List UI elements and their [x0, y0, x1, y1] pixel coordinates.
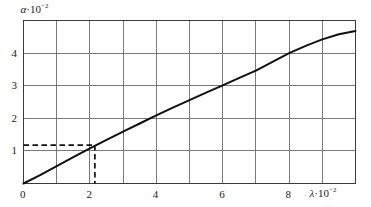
plot-canvas [0, 0, 371, 207]
xtick-label-3: 6 [219, 189, 225, 200]
y-axis-exponent: −2 [41, 2, 48, 10]
chart-figure: 0 2 4 6 8 1 2 3 4 α·10−2 λ·10−2 [0, 0, 371, 207]
xtick-label-1: 2 [86, 189, 92, 200]
x-axis-factor: ·10 [314, 187, 329, 199]
y-axis-factor: ·10 [26, 3, 41, 15]
ytick-label-2: 3 [12, 80, 18, 91]
ytick-label-0: 1 [12, 145, 18, 156]
xtick-label-4: 8 [286, 189, 292, 200]
x-axis-exponent: −2 [329, 186, 336, 194]
y-axis-title: α·10−2 [21, 4, 49, 15]
x-axis-title: λ·10−2 [310, 188, 337, 199]
ytick-label-3: 4 [12, 48, 18, 59]
xtick-label-2: 4 [153, 189, 159, 200]
ytick-label-1: 2 [12, 113, 18, 124]
xtick-label-0: 0 [20, 189, 26, 200]
